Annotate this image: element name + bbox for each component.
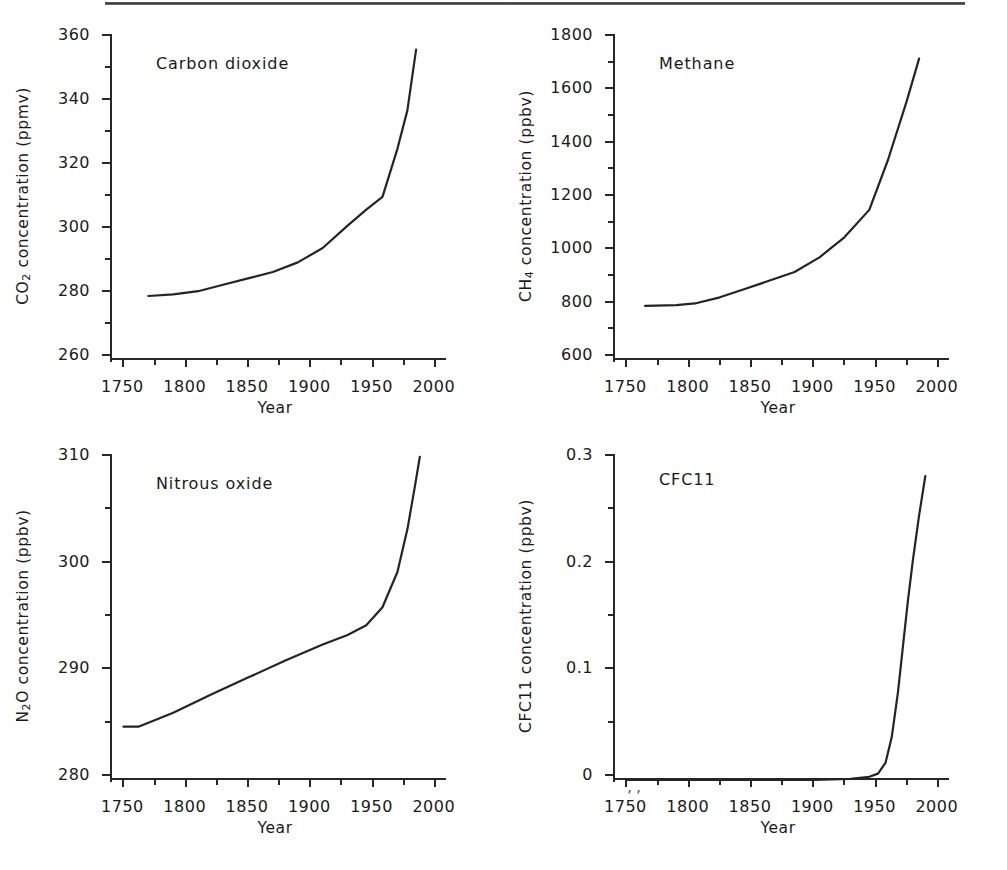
data-series-curve [110, 454, 446, 786]
scan-artifact-mark: ’ [636, 788, 641, 806]
y-tick-label: 360 [58, 25, 90, 44]
x-tick-label: 1750 [101, 797, 144, 816]
chart-panel-1: CH4 concentration (ppbv)YearMethane60080… [503, 18, 1006, 438]
plot-area: Nitrous oxide280290300310175018001850190… [110, 460, 440, 780]
plot-area: Carbon dioxide26028030032034036017501800… [110, 40, 440, 360]
x-tick-label: 1850 [226, 377, 269, 396]
plot-area: Methane600800100012001400160018001750180… [613, 40, 943, 360]
y-tick-label: 0 [582, 765, 593, 784]
chart-panel-3: CFC11 concentration (ppbv)YearCFC1100.10… [503, 438, 1006, 858]
y-axis-label-subscript: 2 [20, 703, 33, 711]
x-tick-label: 1850 [729, 797, 772, 816]
y-tick-label: 280 [58, 281, 90, 300]
plot-area: CFC1100.10.20.3175018001850190019502000’… [613, 460, 943, 780]
y-axis-label: CH4 concentration (ppbv) [517, 26, 543, 366]
x-tick-label: 2000 [412, 797, 455, 816]
x-axis-label: Year [150, 399, 400, 417]
y-tick-label: 1800 [550, 25, 593, 44]
y-tick-label: 1400 [550, 131, 593, 150]
y-tick-label: 320 [58, 153, 90, 172]
y-tick-label: 260 [58, 345, 90, 364]
x-tick-label: 1950 [853, 377, 896, 396]
x-tick-label: 1750 [101, 377, 144, 396]
greenhouse-gas-figure: CO2 concentration (ppmv)YearCarbon dioxi… [0, 18, 1007, 863]
bleed-text-line-1 [18, 818, 993, 836]
y-tick-label: 300 [58, 217, 90, 236]
y-axis-label-subscript: 4 [523, 271, 536, 279]
y-axis-label-base: CH [517, 278, 535, 302]
y-axis-label-subscript: 2 [20, 273, 33, 281]
x-tick-label: 1850 [729, 377, 772, 396]
x-tick-label: 1850 [226, 797, 269, 816]
y-tick-label: 340 [58, 89, 90, 108]
y-tick-label: 1600 [550, 78, 593, 97]
y-axis-label-base: CFC11 [517, 680, 535, 733]
x-tick-label: 1800 [163, 797, 206, 816]
x-tick-label: 1750 [604, 377, 647, 396]
x-tick-label: 1800 [163, 377, 206, 396]
x-tick-label: 1800 [666, 797, 709, 816]
y-tick-label: 290 [58, 658, 90, 677]
y-axis-label: N2O concentration (ppbv) [14, 446, 40, 786]
x-tick-label: 1800 [666, 377, 709, 396]
y-axis-label-base: CO [14, 281, 32, 305]
page-top-rule [105, 2, 965, 5]
x-tick-label: 2000 [915, 377, 958, 396]
data-series-curve [110, 34, 446, 366]
y-tick-label: 0.3 [566, 445, 593, 464]
scan-artifact-mark: ’ [627, 788, 632, 806]
y-axis-label-rest: concentration (ppmv) [14, 87, 32, 273]
data-series-curve [613, 34, 949, 366]
x-tick-label: 1950 [350, 797, 393, 816]
x-tick-label: 1900 [288, 377, 331, 396]
x-tick-label: 1950 [853, 797, 896, 816]
x-tick-label: 2000 [915, 797, 958, 816]
y-tick-label: 600 [561, 345, 593, 364]
x-tick-label: 1900 [288, 797, 331, 816]
y-axis-label-base: N [14, 710, 32, 722]
x-axis-label: Year [653, 399, 903, 417]
y-tick-label: 300 [58, 551, 90, 570]
y-tick-label: 310 [58, 445, 90, 464]
x-tick-label: 1900 [791, 377, 834, 396]
y-tick-label: 800 [561, 291, 593, 310]
y-axis-label-rest: concentration (ppbv) [517, 499, 535, 680]
x-tick-label: 2000 [412, 377, 455, 396]
x-tick-label: 1900 [791, 797, 834, 816]
y-axis-label: CO2 concentration (ppmv) [14, 26, 40, 366]
bleed-text-line-2 [18, 842, 993, 860]
y-tick-label: 1200 [550, 185, 593, 204]
y-tick-label: 1000 [550, 238, 593, 257]
y-tick-label: 0.1 [566, 658, 593, 677]
y-tick-label: 0.2 [566, 551, 593, 570]
y-tick-label: 280 [58, 765, 90, 784]
y-axis-label-rest: concentration (ppbv) [517, 90, 535, 271]
chart-panel-0: CO2 concentration (ppmv)YearCarbon dioxi… [0, 18, 503, 438]
x-tick-label: 1950 [350, 377, 393, 396]
y-axis-label: CFC11 concentration (ppbv) [517, 446, 543, 786]
chart-panel-2: N2O concentration (ppbv)YearNitrous oxid… [0, 438, 503, 858]
y-axis-label-rest: O concentration (ppbv) [14, 509, 32, 702]
data-series-curve [613, 454, 949, 786]
scan-bleed-through [0, 818, 1007, 866]
